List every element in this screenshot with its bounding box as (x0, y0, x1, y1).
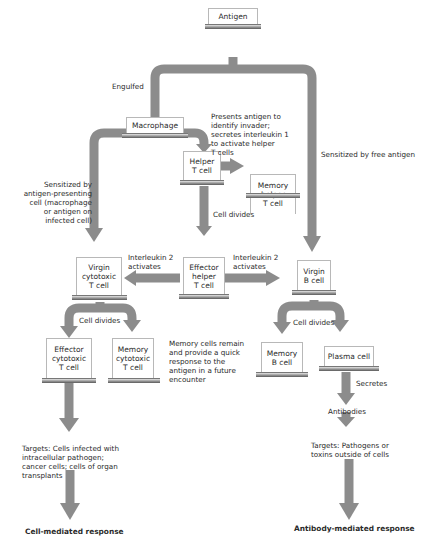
virgin-b-label: Virgin B cell (303, 267, 325, 285)
helper-t-label: Helper T cell (190, 157, 215, 175)
effector-cytotoxic-t-base (42, 378, 96, 383)
effector-cytotoxic-t-box: Effector cytotoxic T cell (46, 338, 92, 378)
targets-antibody-note: Targets: Pathogens or toxins outside of … (300, 441, 400, 459)
targets-cell-mediated-note: Targets: Cells infected with intracellul… (22, 444, 119, 480)
antigen-label: Antigen (218, 12, 247, 21)
sensitized-apc-label: Sensitized by antigen-presenting cell (m… (8, 180, 92, 225)
memory-b-label: Memory B cell (267, 349, 298, 367)
macrophage-base (122, 133, 188, 138)
virgin-cytotoxic-t-base (72, 295, 127, 300)
antigen-base (205, 24, 261, 29)
engulfed-label: Engulfed (112, 82, 144, 91)
memory-b-base (256, 372, 308, 377)
plasma-box: Plasma cell (324, 346, 374, 366)
virgin-cytotoxic-t-box: Virgin cytotoxic T cell (76, 257, 122, 295)
effector-helper-t-base (179, 294, 229, 299)
presents-antigen-note: Presents antigen to identify invader; se… (211, 112, 289, 157)
memory-b-box: Memory B cell (261, 342, 303, 372)
interleukin2-left-label: Interleukin 2 activates (128, 253, 173, 271)
memory-cells-note: Memory cells remain and provide a quick … (169, 339, 244, 384)
effector-helper-t-box: Effector helper T cell (183, 257, 225, 294)
cell-mediated-response-label: Cell-mediated response (25, 527, 124, 536)
virgin-cytotoxic-t-label: Virgin cytotoxic T cell (82, 263, 116, 290)
antibody-mediated-response-label: Antibody-mediated response (294, 524, 415, 533)
plasma-base (319, 366, 379, 371)
effector-cytotoxic-t-label: Effector cytotoxic T cell (52, 345, 86, 372)
effector-helper-t-label: Effector helper T cell (189, 263, 218, 290)
helper-t-base (180, 180, 224, 185)
antigen-box: Antigen (208, 8, 258, 24)
sensitized-free-antigen-label: Sensitized by free antigen (321, 150, 415, 159)
b-cell-divides-label: Cell divides (293, 318, 334, 327)
helper-divides-label: Cell divides (213, 210, 254, 219)
interleukin2-right-label: Interleukin 2 activates (233, 253, 278, 271)
macrophage-box: Macrophage (126, 117, 184, 133)
antibodies-label: Antibodies (328, 407, 366, 416)
virgin-b-base (292, 290, 336, 295)
plasma-label: Plasma cell (328, 352, 370, 361)
memory-cytotoxic-t-label: Memory cytotoxic T cell (116, 345, 150, 372)
cytotoxic-divides-label: Cell divides (79, 316, 120, 325)
memory-cytotoxic-t-base (108, 378, 160, 383)
secretes-label: Secretes (356, 379, 387, 388)
virgin-b-box: Virgin B cell (297, 260, 331, 290)
macrophage-label: Macrophage (132, 121, 178, 130)
memory-helper-t-base (246, 193, 300, 198)
memory-cytotoxic-t-box: Memory cytotoxic T cell (112, 338, 154, 378)
